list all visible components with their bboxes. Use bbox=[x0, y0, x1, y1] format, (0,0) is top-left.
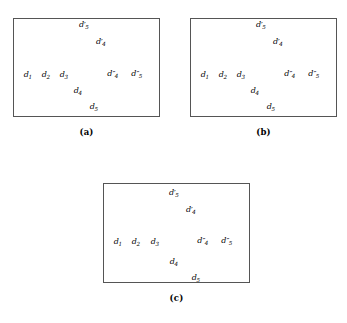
node-label-subscript: 5 bbox=[229, 240, 233, 246]
node-label-a-d3: d3 bbox=[60, 71, 69, 79]
node-label-subscript: 3 bbox=[241, 74, 245, 80]
node-label-a-d5: d5 bbox=[90, 103, 99, 111]
node-label-b-d2: d2 bbox=[219, 71, 228, 79]
node-label-a-d4pp: d″4 bbox=[107, 70, 118, 78]
node-label-c-d5p: d′5 bbox=[169, 189, 179, 197]
node-label-c-d4: d4 bbox=[170, 258, 179, 266]
node-label-a-d4p: d′4 bbox=[96, 38, 106, 46]
node-label-c-d1: d1 bbox=[114, 238, 123, 246]
node-label-a-d5pp: d″5 bbox=[131, 70, 142, 78]
node-label-subscript: 5 bbox=[139, 73, 143, 79]
node-label-a-d1: d1 bbox=[24, 71, 33, 79]
node-label-subscript: 2 bbox=[136, 241, 140, 247]
node-label-b-d1: d1 bbox=[201, 71, 210, 79]
node-label-c-d4pp: d″4 bbox=[197, 237, 208, 245]
node-label-subscript: 4 bbox=[279, 41, 283, 47]
node-label-a-d2: d2 bbox=[42, 71, 51, 79]
node-label-b-d4pp: d″4 bbox=[284, 70, 295, 78]
node-label-subscript: 1 bbox=[28, 74, 32, 80]
panel-b-caption: (b) bbox=[190, 127, 337, 137]
node-label-a-d4: d4 bbox=[74, 87, 83, 95]
node-label-c-d2: d2 bbox=[132, 238, 141, 246]
node-label-subscript: 4 bbox=[205, 240, 209, 246]
node-label-subscript: 5 bbox=[85, 24, 89, 30]
panel-c-caption: (c) bbox=[103, 293, 250, 303]
node-label-subscript: 1 bbox=[205, 74, 209, 80]
node-label-subscript: 5 bbox=[94, 106, 98, 112]
node-label-subscript: 1 bbox=[118, 241, 122, 247]
node-label-subscript: 4 bbox=[174, 261, 178, 267]
node-label-b-d5: d5 bbox=[267, 103, 276, 111]
node-label-subscript: 5 bbox=[271, 106, 275, 112]
node-label-subscript: 5 bbox=[196, 277, 200, 283]
node-label-c-d5pp: d″5 bbox=[221, 237, 232, 245]
node-label-b-d4: d4 bbox=[251, 87, 260, 95]
node-label-c-d5: d5 bbox=[192, 274, 201, 282]
node-label-subscript: 2 bbox=[46, 74, 50, 80]
node-label-a-d5p: d′5 bbox=[79, 21, 89, 29]
node-label-b-d3: d3 bbox=[237, 71, 246, 79]
node-label-subscript: 5 bbox=[262, 24, 266, 30]
node-label-subscript: 4 bbox=[78, 90, 82, 96]
node-label-b-d5p: d′5 bbox=[256, 21, 266, 29]
node-label-subscript: 4 bbox=[115, 73, 119, 79]
panel-c-box bbox=[103, 183, 250, 283]
figure-container: (a)d1d2d3d4d5d′4d′5d″4d″5(b)d1d2d3d4d5d′… bbox=[0, 0, 347, 323]
panel-b-box bbox=[190, 18, 337, 117]
node-label-subscript: 3 bbox=[64, 74, 68, 80]
panel-a-caption: (a) bbox=[13, 127, 160, 137]
node-label-c-d3: d3 bbox=[151, 238, 160, 246]
node-label-subscript: 5 bbox=[175, 192, 179, 198]
node-label-subscript: 3 bbox=[155, 241, 159, 247]
node-label-b-d4p: d′4 bbox=[273, 38, 283, 46]
node-label-subscript: 4 bbox=[192, 209, 196, 215]
node-label-subscript: 4 bbox=[102, 41, 106, 47]
node-label-subscript: 4 bbox=[255, 90, 259, 96]
node-label-subscript: 4 bbox=[292, 73, 296, 79]
node-label-subscript: 2 bbox=[223, 74, 227, 80]
panel-a-box bbox=[13, 18, 160, 117]
node-label-subscript: 5 bbox=[316, 73, 320, 79]
node-label-b-d5pp: d″5 bbox=[308, 70, 319, 78]
node-label-c-d4p: d′4 bbox=[186, 206, 196, 214]
